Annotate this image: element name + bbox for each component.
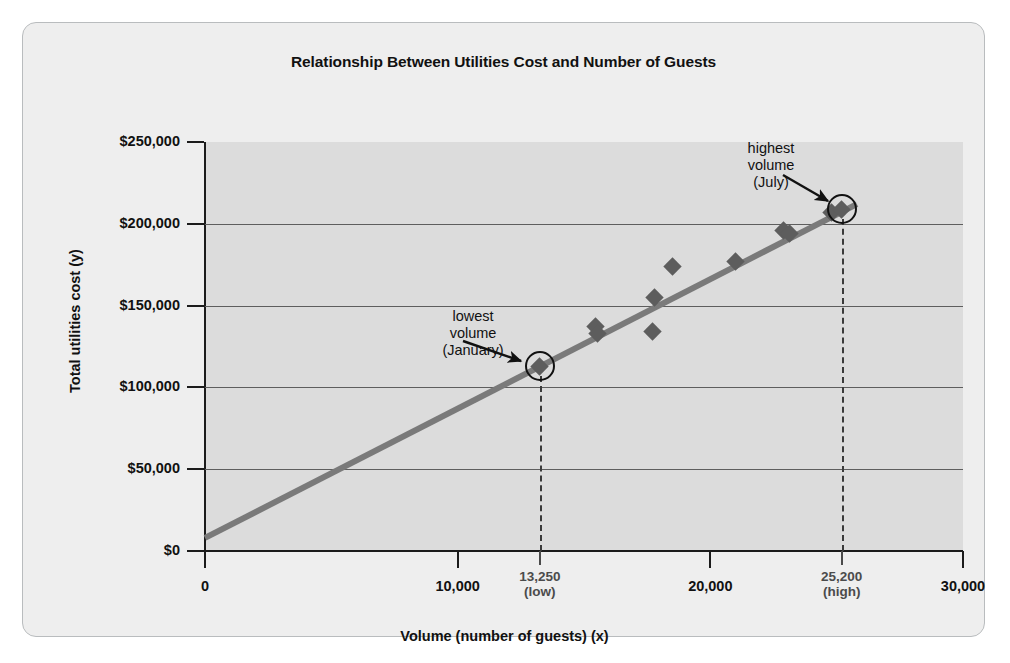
figure-card: Relationship Between Utilities Cost and … <box>22 22 985 637</box>
annotation-highest-volume: highestvolume(July) <box>711 140 831 191</box>
annotation-lowest-volume: lowestvolume(January) <box>413 308 533 359</box>
y-axis-title: Total utilities cost (y) <box>67 171 83 471</box>
annotation-line: volume <box>711 157 831 174</box>
annotation-line: (July) <box>711 174 831 191</box>
annotation-line: (January) <box>413 342 533 359</box>
annotation-line: highest <box>711 140 831 157</box>
x-axis-title: Volume (number of guests) (x) <box>23 628 986 644</box>
annotation-line: lowest <box>413 308 533 325</box>
annotation-line: volume <box>413 325 533 342</box>
